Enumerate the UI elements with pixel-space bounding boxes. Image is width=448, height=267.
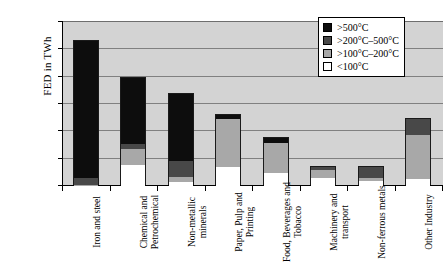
x-tick-mark bbox=[442, 186, 443, 191]
bar-segment bbox=[264, 143, 288, 173]
x-tick-label: Non-metallic minerals bbox=[187, 182, 208, 262]
bar-4 bbox=[215, 114, 241, 185]
bar-segment bbox=[359, 167, 383, 178]
legend-swatch-icon bbox=[323, 36, 332, 45]
x-tick-label: Chemical and Petrochemical bbox=[139, 182, 160, 262]
bar-1 bbox=[73, 40, 99, 185]
chart-figure: FED in TWh 0100200300400500600 Iron and … bbox=[0, 0, 448, 267]
legend-label: <100°C bbox=[337, 62, 368, 72]
bar-segment bbox=[74, 41, 98, 178]
x-tick-label: Machinery and transport bbox=[329, 182, 350, 262]
y-tick-mark bbox=[58, 103, 63, 104]
bar-3 bbox=[168, 93, 194, 185]
legend-swatch-icon bbox=[323, 49, 332, 58]
bar-8 bbox=[405, 118, 431, 185]
bar-segment bbox=[121, 149, 145, 165]
bar-segment bbox=[121, 78, 145, 144]
legend-label: >200°C–500°C bbox=[337, 36, 399, 46]
bar-5 bbox=[263, 137, 289, 185]
legend-item: >100°C–200°C bbox=[323, 47, 399, 60]
x-tick-label: Iron and steel bbox=[92, 182, 103, 262]
y-tick-mark bbox=[58, 21, 63, 22]
x-tick-mark bbox=[395, 186, 396, 191]
y-tick-mark bbox=[58, 76, 63, 77]
y-tick-mark bbox=[58, 48, 63, 49]
x-tick-label: Other Industry bbox=[424, 182, 435, 262]
x-tick-label: Food, Beverages and Tobacco bbox=[282, 182, 303, 262]
x-tick-mark bbox=[110, 186, 111, 191]
x-tick-label: Non-ferrous metals bbox=[377, 182, 388, 262]
legend-item: >500°C bbox=[323, 21, 399, 34]
legend-item: <100°C bbox=[323, 60, 399, 73]
x-tick-mark bbox=[62, 186, 63, 191]
y-tick-mark bbox=[58, 130, 63, 131]
legend-label: >100°C–200°C bbox=[337, 49, 399, 59]
legend: >500°C>200°C–500°C>100°C–200°C<100°C bbox=[318, 17, 405, 77]
bar-segment bbox=[406, 119, 430, 135]
legend-item: >200°C–500°C bbox=[323, 34, 399, 47]
y-tick-mark bbox=[58, 158, 63, 159]
bar-segment bbox=[169, 161, 193, 177]
bar-segment bbox=[169, 94, 193, 162]
x-tick-label: Paper, Pulp and Printing bbox=[234, 182, 255, 262]
bar-2 bbox=[120, 77, 146, 185]
bar-segment bbox=[406, 135, 430, 179]
y-axis-title: FED in TWh bbox=[41, 21, 53, 111]
bar-segment bbox=[311, 170, 335, 179]
legend-swatch-icon bbox=[323, 62, 332, 71]
legend-swatch-icon bbox=[323, 23, 332, 32]
bar-segment bbox=[216, 119, 240, 167]
legend-label: >500°C bbox=[337, 23, 368, 33]
